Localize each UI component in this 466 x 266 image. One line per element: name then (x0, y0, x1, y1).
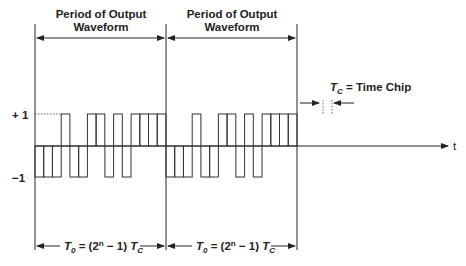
level-plus-one-label: + 1 (12, 109, 29, 121)
chip-plus-one (96, 114, 105, 146)
period-formula-right: T0 = (2n − 1) TC (196, 239, 275, 255)
chip-plus-one (87, 114, 96, 146)
chip-minus-one (166, 146, 175, 177)
chip-minus-one (35, 146, 44, 177)
chip-plus-one (114, 114, 123, 146)
chip-minus-one (236, 146, 245, 177)
chip-plus-one (61, 114, 70, 146)
chip-plus-one (140, 114, 149, 146)
chip-plus-one (280, 114, 289, 146)
chip-plus-one (271, 114, 280, 146)
chip-plus-one (288, 114, 297, 146)
chip-plus-one (157, 114, 166, 146)
chip-minus-one (253, 146, 262, 177)
waveform (35, 114, 297, 177)
chip-minus-one (53, 146, 62, 177)
chip-minus-one (122, 146, 131, 177)
time-chip-label: TC = Time Chip (330, 81, 411, 96)
level-minus-one-label: −1 (12, 172, 26, 184)
chip-plus-one (149, 114, 158, 146)
chip-minus-one (70, 146, 79, 177)
chip-minus-one (44, 146, 53, 177)
chip-plus-one (262, 114, 271, 146)
chip-plus-one (192, 114, 201, 146)
period-formula-left: T0 = (2n − 1) TC (64, 239, 143, 255)
chip-minus-one (210, 146, 219, 177)
period-title-right-line1: Period of Output (187, 8, 278, 20)
chip-plus-one (218, 114, 227, 146)
chip-minus-one (175, 146, 184, 177)
period-title-left-line2: Waveform (73, 21, 128, 33)
chip-minus-one (79, 146, 88, 177)
time-axis-label: t (453, 140, 457, 152)
chip-plus-one (227, 114, 236, 146)
chip-minus-one (201, 146, 210, 177)
chip-minus-one (184, 146, 193, 177)
chip-plus-one (131, 114, 140, 146)
chip-plus-one (245, 114, 254, 146)
period-title-right-line2: Waveform (204, 21, 259, 33)
pn-waveform-diagram: Period of Output Waveform Period of Outp… (0, 0, 466, 266)
period-title-left-line1: Period of Output (56, 8, 147, 20)
chip-minus-one (105, 146, 114, 177)
